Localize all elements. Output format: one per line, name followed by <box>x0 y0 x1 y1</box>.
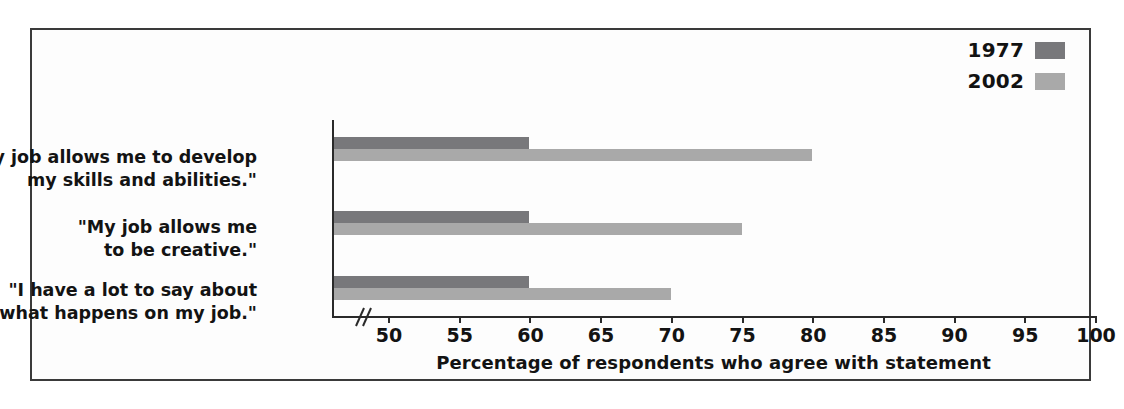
legend-swatch-2002 <box>1035 73 1065 90</box>
value-axis-line <box>332 316 1095 318</box>
plot-area: 1977 2002 "My job allows me to develop m… <box>32 30 1089 379</box>
tick-mark-50 <box>388 316 390 323</box>
bar-2002-0[interactable] <box>332 149 812 161</box>
tick-mark-65 <box>600 316 602 323</box>
tick-label-80: 80 <box>783 324 843 346</box>
tick-label-95: 95 <box>995 324 1055 346</box>
legend-swatch-1977 <box>1035 42 1065 59</box>
tick-mark-80 <box>812 316 814 323</box>
tick-label-75: 75 <box>713 324 773 346</box>
bar-2002-2[interactable] <box>332 288 671 300</box>
tick-label-70: 70 <box>642 324 702 346</box>
tick-mark-95 <box>1024 316 1026 323</box>
tick-mark-55 <box>459 316 461 323</box>
bar-group-2 <box>332 276 671 300</box>
legend-label-1977: 1977 <box>968 38 1024 62</box>
tick-mark-90 <box>954 316 956 323</box>
tick-label-60: 60 <box>500 324 560 346</box>
tick-mark-60 <box>529 316 531 323</box>
tick-label-90: 90 <box>925 324 985 346</box>
bar-2002-1[interactable] <box>332 223 742 235</box>
legend-item-1977[interactable]: 1977 <box>968 38 1065 62</box>
chart-legend: 1977 2002 <box>968 38 1065 93</box>
tick-label-85: 85 <box>854 324 914 346</box>
bar-group-0 <box>332 137 812 161</box>
category-label-0: "My job allows me to develop my skills a… <box>0 146 257 192</box>
tick-mark-75 <box>742 316 744 323</box>
tick-label-100: 100 <box>1066 324 1124 346</box>
tick-mark-85 <box>883 316 885 323</box>
category-axis-line <box>332 120 334 318</box>
bar-group-1 <box>332 211 742 235</box>
bar-1977-2[interactable] <box>332 276 529 288</box>
category-label-1: "My job allows me to be creative." <box>0 216 257 262</box>
chart-frame: 1977 2002 "My job allows me to develop m… <box>30 28 1091 381</box>
axis-title: Percentage of respondents who agree with… <box>332 352 1095 373</box>
tick-mark-100 <box>1095 316 1097 323</box>
tick-label-50: 50 <box>359 324 419 346</box>
bar-1977-1[interactable] <box>332 211 529 223</box>
tick-mark-70 <box>671 316 673 323</box>
tick-label-65: 65 <box>571 324 631 346</box>
category-label-2: "I have a lot to say about what happens … <box>0 279 257 325</box>
tick-label-55: 55 <box>430 324 490 346</box>
legend-label-2002: 2002 <box>968 69 1024 93</box>
legend-item-2002[interactable]: 2002 <box>968 69 1065 93</box>
bar-1977-0[interactable] <box>332 137 529 149</box>
